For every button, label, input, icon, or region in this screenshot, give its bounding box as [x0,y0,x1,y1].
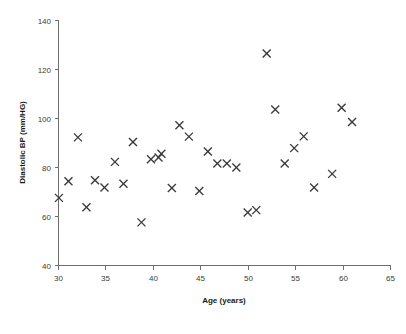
scatter-chart-figure: 406080100120140 3035404550556065 Diastol… [0,0,406,334]
data-point-x-marker [147,155,155,163]
y-tick-label: 80 [42,164,51,173]
chart-canvas: 406080100120140 3035404550556065 Diastol… [0,0,406,334]
data-point-x-marker [185,133,193,141]
x-axis-title: Age (years) [202,296,246,305]
data-point-x-marker [195,187,203,195]
y-axis-title: Diastolic BP (mm/HG) [18,101,27,184]
y-tick-label: 120 [38,66,52,75]
x-tick-label: 30 [54,274,63,283]
data-point-x-marker [91,176,99,184]
data-point-x-marker [232,163,240,171]
data-point-markers [55,50,356,227]
x-axis-group: 3035404550556065 [54,266,395,284]
y-axis-ticks: 406080100120140 [38,17,59,271]
data-point-x-marker [175,121,183,129]
y-tick-label: 40 [42,262,51,271]
data-point-x-marker [100,184,108,192]
x-tick-label: 65 [386,274,395,283]
data-point-x-marker [119,180,127,188]
y-tick-label: 140 [38,17,52,26]
data-point-x-marker [348,118,356,126]
data-point-x-marker [111,158,119,166]
x-tick-label: 55 [291,274,300,283]
data-point-x-marker [338,104,346,112]
data-point-x-marker [244,209,252,217]
data-point-x-marker [271,105,279,113]
x-tick-label: 50 [244,274,253,283]
data-point-x-marker [74,133,82,141]
data-point-x-marker [213,160,221,168]
x-axis-ticks: 3035404550556065 [54,266,395,284]
data-point-x-marker [64,177,72,185]
y-tick-label: 100 [38,115,52,124]
data-point-x-marker [168,184,176,192]
y-axis-group: 406080100120140 [38,17,59,271]
data-point-x-marker [290,144,298,152]
y-tick-label: 60 [42,213,51,222]
data-point-x-marker [204,148,212,156]
data-point-x-marker [310,184,318,192]
data-point-x-marker [223,160,231,168]
data-point-x-marker [281,160,289,168]
data-point-x-marker [129,138,137,146]
data-point-x-marker [300,132,308,140]
data-point-x-marker [157,150,165,158]
x-tick-label: 40 [149,274,158,283]
data-point-x-marker [328,170,336,178]
x-tick-label: 60 [339,274,348,283]
data-point-x-marker [137,218,145,226]
x-tick-label: 35 [101,274,110,283]
data-point-x-marker [263,50,271,58]
x-tick-label: 45 [196,274,205,283]
data-point-x-marker [82,203,90,211]
data-point-x-marker [252,206,260,214]
